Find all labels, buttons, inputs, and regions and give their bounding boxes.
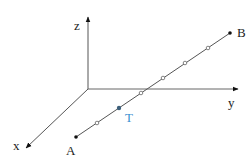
z-axis-label: z <box>74 18 80 33</box>
diagram-canvas: z y x A B T <box>0 0 251 158</box>
x-axis <box>26 89 88 148</box>
division-mark <box>161 76 165 80</box>
point-b-dot <box>228 31 232 35</box>
division-mark <box>183 61 187 65</box>
division-mark <box>95 121 99 125</box>
point-b-label: B <box>237 25 246 40</box>
point-t-dot <box>117 106 121 110</box>
division-mark <box>206 46 210 50</box>
point-a-dot <box>74 135 78 139</box>
x-axis-label: x <box>13 138 20 153</box>
division-mark <box>139 91 143 95</box>
y-axis-label: y <box>228 95 235 110</box>
point-a-label: A <box>66 143 76 158</box>
point-t-label: T <box>125 110 133 125</box>
